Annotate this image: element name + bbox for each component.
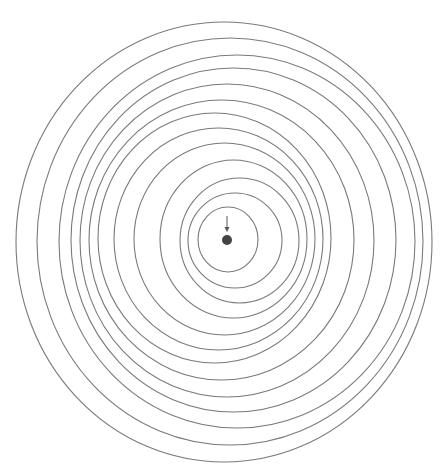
ring-10 [160, 160, 307, 318]
center-dot [222, 235, 232, 245]
ring-6 [89, 100, 354, 380]
ring-4 [71, 68, 396, 412]
arrow-head-icon [225, 227, 230, 232]
ring-3 [59, 55, 415, 428]
ring-12 [188, 193, 282, 288]
concentric-rings-diagram [0, 0, 445, 474]
ring-7 [98, 113, 331, 363]
